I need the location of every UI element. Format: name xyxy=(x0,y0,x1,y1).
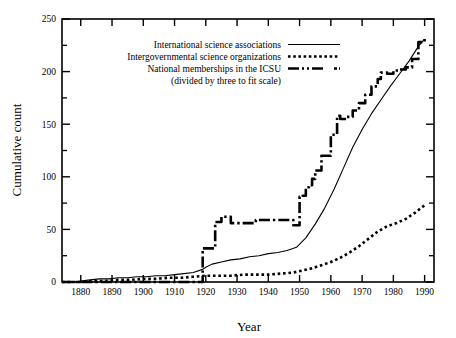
x-tick-label: 1960 xyxy=(321,287,340,297)
x-tick-label: 1910 xyxy=(165,287,184,297)
series-line-dash-dot xyxy=(62,38,425,282)
x-tick-label: 1970 xyxy=(353,287,372,297)
y-tick-label: 250 xyxy=(42,14,57,24)
chart-figure: 050100150200250 188018901900191019201930… xyxy=(0,0,456,338)
x-tick-label: 1900 xyxy=(134,287,153,297)
x-tick-label: 1920 xyxy=(196,287,215,297)
y-axis-tick-labels: 050100150200250 xyxy=(42,14,57,287)
x-tick-label: 1930 xyxy=(228,287,247,297)
x-axis-title: Year xyxy=(237,319,262,334)
series-line-dotted xyxy=(62,205,425,282)
chart-canvas: 050100150200250 188018901900191019201930… xyxy=(0,0,456,338)
y-tick-label: 50 xyxy=(47,225,57,235)
legend-label-international-science-associations: International science associations xyxy=(154,40,281,50)
x-tick-label: 1890 xyxy=(103,287,122,297)
x-axis-tick-labels: 1880189019001910192019301940195019601970… xyxy=(71,287,434,297)
x-tick-label: 1950 xyxy=(290,287,309,297)
y-tick-label: 150 xyxy=(42,120,57,130)
chart-legend: International science associations Inter… xyxy=(127,40,340,87)
legend-label-intergovernmental-science-organizations: Intergovernmental science organizations xyxy=(127,52,281,62)
x-tick-label: 1980 xyxy=(384,287,403,297)
y-tick-label: 100 xyxy=(42,172,57,182)
legend-label-national-memberships-icsu: National memberships in the ICSU xyxy=(147,64,281,74)
x-tick-label: 1940 xyxy=(259,287,278,297)
data-series-layer xyxy=(62,38,425,282)
x-tick-label: 1880 xyxy=(71,287,90,297)
y-tick-label: 0 xyxy=(51,277,56,287)
legend-sublabel-divided-by-three: (divided by three to fit scale) xyxy=(171,76,281,87)
x-tick-label: 1990 xyxy=(415,287,434,297)
y-axis-title: Cumulative count xyxy=(9,103,24,196)
y-tick-label: 200 xyxy=(42,67,57,77)
